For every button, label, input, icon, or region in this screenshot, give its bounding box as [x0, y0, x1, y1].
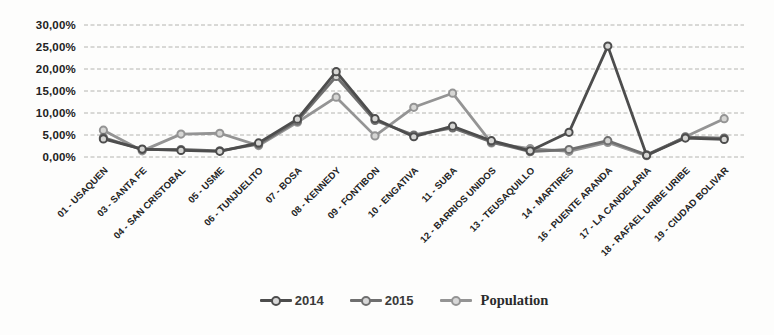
data-point-2014[interactable] — [410, 133, 417, 140]
data-point-2014[interactable] — [100, 135, 107, 142]
data-point-population[interactable] — [177, 131, 184, 138]
data-point-2014[interactable] — [604, 43, 611, 50]
legend-line-marker-2015-icon — [350, 296, 382, 306]
legend-line-marker-population-icon — [440, 296, 472, 306]
legend-item-2015[interactable]: 2015 — [350, 293, 414, 308]
chart-legend: 2014 2015 Population — [0, 292, 774, 309]
y-axis-label: 20,00% — [36, 63, 76, 75]
x-axis-label: 19 - CIUDAD BOLIVAR — [652, 165, 731, 244]
data-point-2014[interactable] — [177, 147, 184, 154]
data-point-population[interactable] — [216, 130, 223, 137]
data-point-2014[interactable] — [139, 145, 146, 152]
data-point-2014[interactable] — [643, 152, 650, 159]
data-point-2014[interactable] — [449, 123, 456, 130]
y-axis-label: 5,00% — [42, 129, 76, 141]
data-point-2014[interactable] — [255, 139, 262, 146]
series-line-population[interactable] — [103, 93, 724, 155]
data-point-population[interactable] — [449, 90, 456, 97]
x-axis-label: 11 - SUBA — [419, 165, 459, 205]
data-point-2015[interactable] — [604, 137, 611, 144]
x-axis-label: 04 - SAN CRISTOBAL — [111, 165, 187, 241]
x-axis-label: 05 - USME — [186, 165, 227, 206]
data-point-2014[interactable] — [488, 137, 495, 144]
chart-figure: 0,00%5,00%10,00%15,00%20,00%25,00%30,00%… — [0, 0, 774, 335]
data-point-population[interactable] — [371, 132, 378, 139]
data-point-2014[interactable] — [216, 148, 223, 155]
data-point-population[interactable] — [100, 127, 107, 134]
data-point-2014[interactable] — [294, 116, 301, 123]
y-axis-label: 15,00% — [36, 85, 76, 97]
line-chart-canvas: 0,00%5,00%10,00%15,00%20,00%25,00%30,00%… — [0, 0, 774, 292]
data-point-2014[interactable] — [333, 68, 340, 75]
y-axis-label: 0,00% — [42, 151, 76, 163]
legend-label-2014: 2014 — [295, 293, 324, 308]
x-axis-label: 16 - PUENTE ARANDA — [535, 165, 614, 244]
y-axis-label: 10,00% — [36, 107, 76, 119]
legend-label-2015: 2015 — [385, 293, 414, 308]
data-point-2015[interactable] — [565, 146, 572, 153]
y-axis-label: 30,00% — [36, 19, 76, 31]
legend-item-2014[interactable]: 2014 — [260, 293, 324, 308]
data-point-2014[interactable] — [682, 134, 689, 141]
legend-item-population[interactable]: Population — [440, 292, 549, 309]
x-axis-label: 12 - BARRIOS UNIDOS — [418, 165, 498, 245]
data-point-2014[interactable] — [721, 136, 728, 143]
data-point-2014[interactable] — [527, 147, 534, 154]
data-point-2014[interactable] — [565, 129, 572, 136]
legend-line-marker-2014-icon — [260, 296, 292, 306]
data-point-population[interactable] — [721, 115, 728, 122]
data-point-2014[interactable] — [371, 115, 378, 122]
data-point-population[interactable] — [410, 104, 417, 111]
x-axis-label: 07 - BOSA — [263, 165, 304, 206]
y-axis-label: 25,00% — [36, 41, 76, 53]
x-axis-label: 13 - TEUSAQUILLO — [467, 165, 536, 234]
legend-label-population: Population — [481, 292, 549, 309]
data-point-population[interactable] — [333, 94, 340, 101]
x-axis-label: 17 - LA CANDELARIA — [577, 165, 653, 241]
